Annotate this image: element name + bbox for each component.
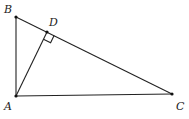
label-c: C [176,100,185,113]
label-d: D [48,16,58,29]
label-a: A [3,100,12,113]
segment-ad-altitude [16,32,47,96]
segment-ac [16,94,172,96]
triangle-diagram: B D A C [0,0,189,119]
segment-bc [16,17,172,94]
point-c [170,92,173,95]
point-b [14,15,17,18]
point-d [45,30,48,33]
label-b: B [3,3,12,16]
point-a [14,94,17,97]
